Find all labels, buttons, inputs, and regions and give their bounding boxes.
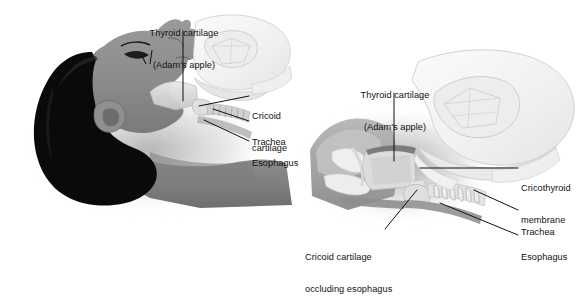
leader-left-esophagus — [204, 120, 249, 141]
label-right-thyroid-cartilage: Thyroid cartilage (Adam's apple) — [345, 69, 445, 154]
label-left-esophagus: Esophagus — [252, 137, 298, 190]
label-left-thyroid-cartilage: Thyroid cartilage (Adam's apple) — [134, 7, 234, 92]
leader-right-esophagus — [440, 203, 518, 235]
label-line-1: Esophagus — [252, 158, 298, 169]
leader-right-cricoid-occluding — [385, 190, 417, 229]
label-line-1: Thyroid cartilage — [345, 90, 445, 101]
label-line-1: Esophagus — [521, 252, 567, 263]
label-line-1: Cricothyroid — [521, 183, 571, 194]
leader-right-trachea — [474, 190, 518, 210]
label-line-1: Cricoid cartilage — [305, 252, 392, 263]
label-right-esophagus: Esophagus — [521, 231, 567, 284]
label-right-cricoid-occluding-esophagus: Cricoid cartilage occluding esophagus — [305, 231, 392, 298]
leader-left-trachea — [213, 109, 249, 121]
label-line-2: (Adam's apple) — [345, 122, 445, 133]
leader-left-cricoid-cartilage — [199, 96, 249, 106]
label-line-2: (Adam's apple) — [134, 60, 234, 71]
label-line-1: Thyroid cartilage — [134, 28, 234, 39]
label-line-2: occluding esophagus — [305, 284, 392, 295]
